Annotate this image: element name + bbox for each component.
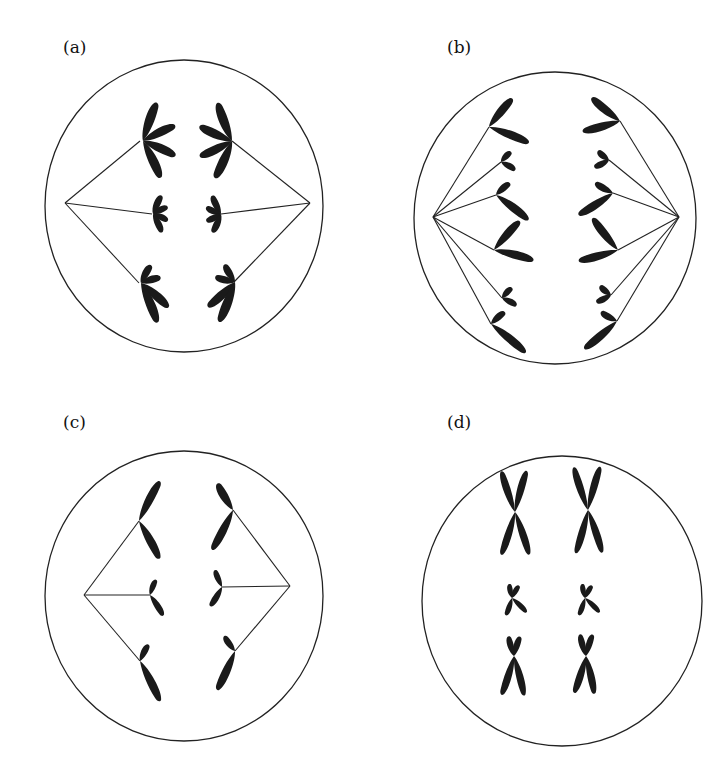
chromosomes-c xyxy=(135,479,240,703)
chromosomes-b xyxy=(485,95,622,356)
cell-membrane-b xyxy=(414,72,696,364)
panel-b xyxy=(414,72,696,364)
figure-canvas xyxy=(0,0,727,768)
chromosomes-d xyxy=(498,466,606,697)
panel-d xyxy=(422,456,702,746)
chromosomes-a xyxy=(137,101,240,324)
cell-membrane-d xyxy=(422,456,702,746)
spindle-c xyxy=(84,510,290,661)
panel-a xyxy=(45,60,323,352)
spindle-b xyxy=(433,121,679,324)
spindle-a xyxy=(65,141,310,283)
panel-c xyxy=(45,451,323,741)
